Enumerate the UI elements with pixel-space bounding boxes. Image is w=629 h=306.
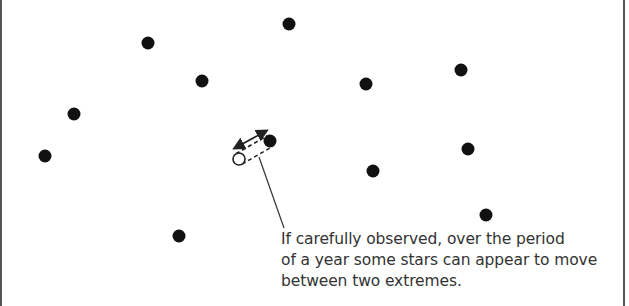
- star-dot: [68, 108, 81, 121]
- caption: If carefully observed, over the period o…: [281, 229, 621, 292]
- parallax-annotation: [233, 131, 284, 228]
- star-dot: [196, 75, 209, 88]
- star-position-filled: [264, 135, 277, 148]
- star-dot: [142, 37, 155, 50]
- star-dot: [283, 18, 296, 31]
- star-dot: [455, 64, 468, 77]
- background-stars: [39, 18, 493, 243]
- caption-line-1: If carefully observed, over the period: [281, 229, 621, 250]
- caption-line-2: of a year some stars can appear to move: [281, 250, 621, 271]
- star-dot: [462, 143, 475, 156]
- star-dot: [360, 78, 373, 91]
- star-dot: [367, 165, 380, 178]
- caption-line-3: between two extremes.: [281, 271, 621, 292]
- star-position-open: [233, 153, 245, 165]
- star-dot: [173, 230, 186, 243]
- leader-line: [259, 157, 284, 228]
- star-dot: [480, 209, 493, 222]
- dashed-connector-top: [242, 146, 273, 164]
- star-dot: [39, 150, 52, 163]
- parallax-diagram: If carefully observed, over the period o…: [0, 0, 629, 306]
